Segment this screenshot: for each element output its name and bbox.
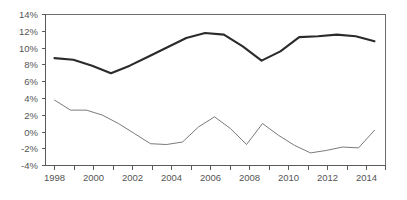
data-line-thick-series: [55, 33, 375, 73]
x-tick-marks: [55, 166, 386, 170]
x-tick-label-2008: 2008: [239, 172, 260, 183]
y-tick-label-8: 8%: [24, 59, 38, 70]
x-tick-label-2012: 2012: [317, 172, 338, 183]
chart-container: 14% 12% 10% 8% 6% 4% 2% 0% -2% -4%: [0, 0, 407, 200]
line-chart: 14% 12% 10% 8% 6% 4% 2% 0% -2% -4%: [0, 0, 407, 200]
x-tick-label-2002: 2002: [122, 172, 143, 183]
y-tick-label-14: 14%: [19, 9, 39, 20]
x-tick-label-2010: 2010: [278, 172, 299, 183]
x-tick-label-2000: 2000: [83, 172, 104, 183]
y-tick-label-4: 4%: [24, 93, 38, 104]
x-tick-label-2006: 2006: [200, 172, 221, 183]
x-tick-label-2004: 2004: [161, 172, 182, 183]
y-tick-label-12: 12%: [19, 26, 39, 37]
y-tick-label-neg2: -2%: [21, 143, 38, 154]
y-tick-label-6: 6%: [24, 76, 38, 87]
y-tick-label-0: 0%: [24, 127, 38, 138]
y-tick-marks: [42, 15, 46, 166]
y-tick-label-2: 2%: [24, 110, 38, 121]
x-tick-label-2014: 2014: [356, 172, 377, 183]
figure-caption: [0, 192, 407, 200]
y-tick-label-neg4: -4%: [21, 160, 38, 171]
y-tick-label-10: 10%: [19, 43, 39, 54]
x-tick-label-1998: 1998: [44, 172, 65, 183]
data-line-thin-series: [55, 100, 375, 153]
